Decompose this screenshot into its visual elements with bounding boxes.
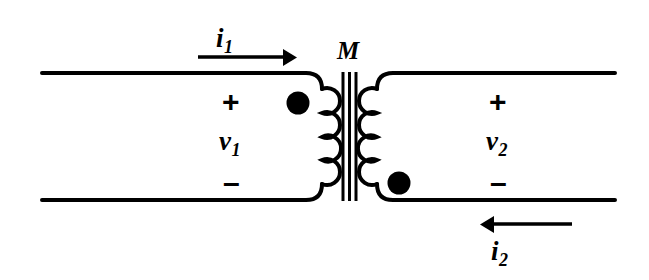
- primary-dot-marker: [287, 92, 310, 115]
- primary-bottom-lead: [42, 184, 322, 200]
- secondary-minus-sign: –: [490, 168, 507, 198]
- secondary-dot-marker: [388, 172, 411, 195]
- voltage-v1-label: v1: [219, 128, 240, 159]
- iron-core-bars: [343, 72, 356, 201]
- primary-top-lead: [42, 73, 322, 89]
- circuit-diagram: [0, 0, 649, 280]
- primary-plus-sign: +: [222, 87, 240, 117]
- secondary-plus-sign: +: [489, 87, 507, 117]
- diagram-canvas: i1 M + v1 – + v2 – i2: [0, 0, 649, 280]
- mutual-inductance-label: M: [337, 38, 359, 63]
- primary-minus-sign: –: [223, 168, 240, 198]
- current-i1-label: i1: [216, 25, 233, 56]
- secondary-coil: [358, 88, 377, 185]
- current-i2-arrow: [480, 216, 572, 233]
- primary-coil: [322, 88, 341, 185]
- current-i1-arrow: [198, 49, 297, 66]
- current-i2-label: i2: [491, 238, 508, 269]
- voltage-v2-label: v2: [486, 128, 507, 159]
